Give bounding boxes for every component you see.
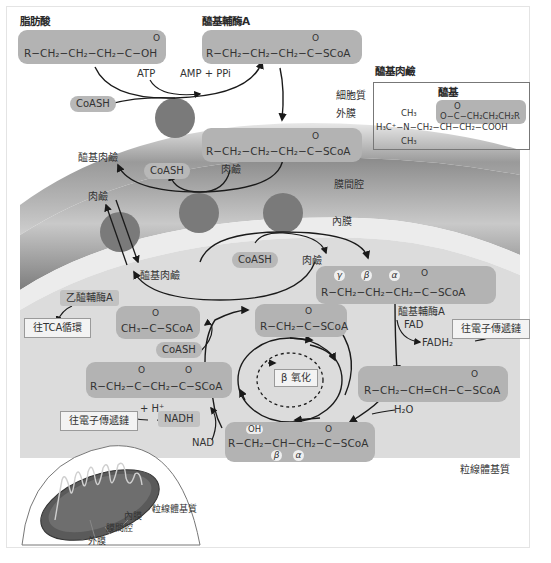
hydroxyacyl-coa-box: OH O R−CH₂−CH−CH₂−C−SCoA β α bbox=[225, 422, 375, 462]
to-etc-button-2: 往電子傳遞鏈 bbox=[60, 411, 138, 431]
keto-carbonyl-1: O bbox=[138, 366, 145, 375]
h2o-label: H₂O bbox=[394, 405, 413, 415]
matrix-acyl-coa-box: γ β α O R−CH₂−CH₂−CH₂−C−SCoA bbox=[316, 266, 496, 304]
acyl-group-formula: O−C−CH₂CH₂CH₂R bbox=[440, 112, 520, 121]
hydroxy-beta-marker: β bbox=[271, 450, 282, 461]
acyl-group-label: 醯基 bbox=[438, 87, 458, 98]
ims-acyl-coa-box: O R−CH₂−CH₂−CH₂−C−SCoA bbox=[202, 128, 362, 162]
acetyl-formula: CH₃−C−SCoA bbox=[121, 323, 193, 334]
ims-carnitine-out: 肉鹼 bbox=[88, 192, 108, 202]
ims-carnitine: 肉鹼 bbox=[221, 165, 241, 175]
ims-acyl-coa-carbonyl: O bbox=[312, 132, 319, 141]
fad-label: FAD bbox=[404, 320, 423, 330]
acyl-coa-dehydrogenase: 醯基輔酶A bbox=[398, 307, 445, 317]
enoyl-formula: R−CH₂−CH=CH−C−SCoA bbox=[364, 385, 500, 396]
nad-label: NAD bbox=[192, 438, 214, 448]
acetyl-coa-label: 乙醯輔酶A bbox=[60, 290, 119, 306]
shortened-carbonyl: O bbox=[305, 307, 312, 316]
inset-intermembrane-label: 膜間腔 bbox=[106, 524, 133, 533]
beta-oxidation-label: β 氧化 bbox=[274, 369, 318, 387]
atp-label: ATP bbox=[137, 69, 155, 79]
methyl-top: CH₃ bbox=[401, 109, 417, 118]
coash-pill-ims: CoASH bbox=[144, 163, 190, 179]
shortened-acyl-coa-box: O R−CH₂−C−SCoA bbox=[255, 304, 347, 337]
methyl-bottom: CH₃ bbox=[401, 137, 417, 146]
coash-pill-cytoplasm: CoASH bbox=[70, 96, 116, 112]
acyl-group-box: O O−C−CH₂CH₂CH₂R bbox=[436, 100, 526, 124]
acyl-carnitine-inset: 醯基 O O−C−CH₂CH₂CH₂R CH₃ H₃C⁺−N−CH₂−CH−CH… bbox=[373, 82, 530, 150]
acyl-group-carbonyl: O bbox=[454, 102, 461, 111]
gamma-marker: γ bbox=[334, 270, 345, 281]
hydroxy-alpha-marker: α bbox=[293, 450, 304, 461]
region-matrix: 粒線體基質 bbox=[460, 465, 510, 475]
region-outer-membrane: 外膜 bbox=[336, 109, 356, 119]
alpha-marker: α bbox=[389, 270, 400, 281]
inset-matrix-label: 粒線體基質 bbox=[152, 505, 197, 514]
inset-inner-membrane-label: 內膜 bbox=[124, 512, 142, 521]
acyl-carnitine-inset-title: 醯基肉鹼 bbox=[375, 66, 415, 77]
acetyl-coa-box: O CH₃−C−SCoA bbox=[116, 306, 200, 339]
carnitine-backbone: H₃C⁺−N−CH₂−CH−CH₂−COOH bbox=[376, 123, 508, 132]
to-tca-button: 往TCA循環 bbox=[24, 318, 91, 338]
acyl-coa-box: O R−CH₂−CH₂−CH₂−C−SCoA bbox=[202, 30, 362, 64]
fatty-acid-carbonyl: O bbox=[153, 34, 160, 43]
acyl-coa-carbonyl: O bbox=[312, 34, 319, 43]
h-plus-label: + H⁺ bbox=[140, 404, 164, 414]
fatty-acid-title: 脂肪酸 bbox=[20, 16, 50, 27]
region-inner-membrane: 內膜 bbox=[332, 217, 352, 227]
coash-pill-matrix: CoASH bbox=[232, 252, 278, 268]
fadh2-label: FADH₂ bbox=[422, 338, 453, 348]
transporter-cpt1 bbox=[155, 98, 195, 138]
inset-outer-membrane-label: 外膜 bbox=[88, 537, 106, 546]
region-intermembrane-space: 膜間腔 bbox=[334, 180, 364, 190]
ims-acyl-coa-formula: R−CH₂−CH₂−CH₂−C−SCoA bbox=[206, 146, 351, 157]
transporter-a bbox=[179, 193, 219, 233]
region-cytoplasm: 細胞質 bbox=[336, 91, 366, 101]
fatty-acid-box: O R−CH₂−CH₂−CH₂−C−OH bbox=[18, 30, 166, 64]
enoyl-coa-box: O R−CH₂−CH=CH−C−SCoA bbox=[358, 366, 508, 402]
matrix-acyl-coa-formula: R−CH₂−CH₂−CH₂−C−SCoA bbox=[321, 287, 466, 298]
enoyl-carbonyl: O bbox=[471, 370, 478, 379]
acetyl-carbonyl: O bbox=[152, 309, 159, 318]
ims-acyl-carnitine: 醯基肉鹼 bbox=[78, 153, 118, 163]
matrix-carnitine: 肉鹼 bbox=[302, 256, 322, 266]
amp-ppi-label: AMP + PPi bbox=[180, 69, 231, 79]
fatty-acid-formula: R−CH₂−CH₂−CH₂−C−OH bbox=[24, 48, 157, 59]
hydroxy-oh: OH bbox=[246, 425, 263, 434]
beta-marker: β bbox=[361, 270, 372, 281]
shortened-formula: R−CH₂−C−SCoA bbox=[260, 321, 348, 332]
matrix-acyl-carnitine: 醯基肉鹼 bbox=[140, 271, 180, 281]
matrix-acyl-coa-carbonyl: O bbox=[421, 269, 428, 278]
keto-formula: R−CH₂−C−CH₂−C−SCoA bbox=[90, 381, 222, 392]
acyl-coa-title: 醯基輔酶A bbox=[202, 16, 250, 27]
keto-carbonyl-2: O bbox=[185, 366, 192, 375]
acyl-coa-formula: R−CH₂−CH₂−CH₂−C−SCoA bbox=[206, 48, 351, 59]
hydroxy-carbonyl: O bbox=[325, 425, 332, 434]
hydroxy-formula: R−CH₂−CH−CH₂−C−SCoA bbox=[228, 438, 368, 449]
ketoacyl-coa-box: O O R−CH₂−C−CH₂−C−SCoA bbox=[86, 362, 232, 398]
transporter-cpt2 bbox=[263, 193, 303, 233]
to-etc-button-1: 往電子傳遞鏈 bbox=[452, 319, 530, 339]
coash-pill-thiolase: CoASH bbox=[156, 342, 202, 358]
